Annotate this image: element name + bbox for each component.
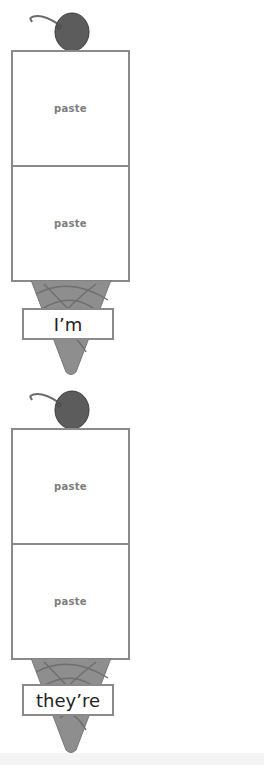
sundae-1: paste paste I’m [0,0,140,380]
scoop-paste-area[interactable]: paste [13,165,128,280]
page-bottom-strip [0,753,264,765]
scoop-paste-area[interactable]: paste [13,52,128,165]
contraction-label: I’m [22,308,114,340]
sundae-2: paste paste they’re [0,378,140,758]
contraction-label: they’re [22,684,114,716]
cherry-icon [26,10,96,52]
scoop-paste-area[interactable]: paste [13,430,128,543]
scoop-paste-area[interactable]: paste [13,543,128,658]
paste-label: paste [54,481,87,492]
paste-label: paste [54,218,87,229]
paste-label: paste [54,596,87,607]
paste-label: paste [54,103,87,114]
scoop-stack: paste paste [11,50,130,282]
scoop-stack: paste paste [11,428,130,660]
cherry-icon [26,388,96,430]
